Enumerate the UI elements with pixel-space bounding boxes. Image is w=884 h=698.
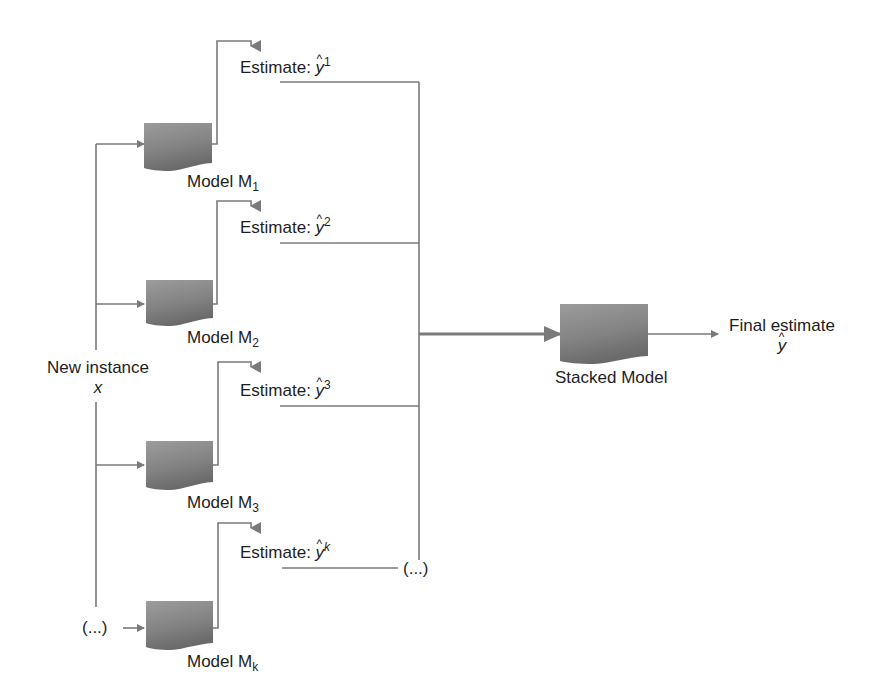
y-hat-symbol: y [316,218,325,238]
y-hat-symbol: y [778,336,787,356]
model-box-m2 [146,280,213,326]
model-label-m1: Model M1 [187,172,259,192]
output-line-m2 [213,201,251,304]
estimates-continuation: (...) [403,559,429,579]
estimate-label-2: Estimate: y2 [240,218,331,238]
output-line-m1 [212,41,251,144]
stacked-model-box [560,304,648,364]
model-box-m3 [146,441,213,490]
output-line-m3 [213,362,251,465]
input-variable: x [36,378,160,398]
estimate-label-k: Estimate: yk [240,543,330,563]
model-label-m2: Model M2 [187,328,259,348]
y-hat-symbol: y [316,381,325,401]
model-box-mk [146,601,213,650]
stacked-model-label: Stacked Model [555,368,667,388]
estimate-label-3: Estimate: y3 [240,381,331,401]
input-label: New instance x [36,358,160,398]
output-line-mk [213,523,251,628]
final-estimate-label: Final estimate y [718,316,846,356]
y-hat-symbol: y [316,58,325,78]
y-hat-symbol: y [316,543,325,563]
estimate-label-1: Estimate: y1 [240,58,331,78]
model-box-m1 [144,123,212,171]
input-label-text: New instance [36,358,160,378]
model-label-m3: Model M3 [187,493,259,513]
model-label-mk: Model Mk [187,652,258,672]
input-continuation: (...) [82,618,108,638]
